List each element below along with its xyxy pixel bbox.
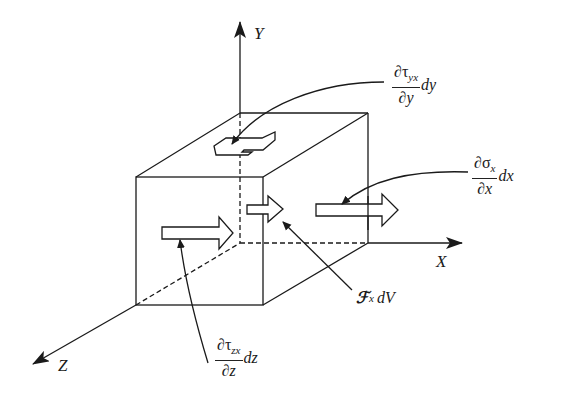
z-axis — [33, 305, 136, 364]
leader-shear-zx — [180, 240, 208, 363]
x-axis-label: X — [436, 252, 446, 272]
cube-front-face — [136, 177, 263, 305]
shear-yx-arrow — [214, 132, 275, 155]
leader-normal-x — [342, 172, 468, 204]
normal-x-arrow — [316, 194, 398, 226]
z-axis-label: Z — [58, 356, 67, 376]
formula-body-force: ℱx dV — [356, 288, 395, 307]
y-axis-label: Y — [254, 24, 263, 44]
shear-zx-arrow — [162, 217, 233, 249]
leader-body-force — [283, 222, 352, 290]
formula-shear-zx: ∂τzx ∂z dz — [215, 335, 258, 380]
body-force-arrow — [247, 196, 283, 222]
hidden-edge-depth — [136, 243, 240, 305]
formula-normal-x: ∂σx ∂x dx — [472, 153, 514, 198]
stress-cube-diagram — [0, 0, 570, 408]
formula-shear-yx: ∂τyx ∂y dy — [392, 62, 436, 107]
